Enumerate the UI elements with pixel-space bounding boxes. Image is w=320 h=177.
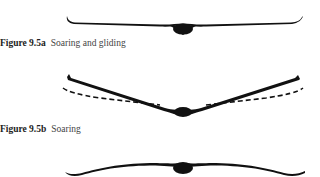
silhouette-soaring-dihedral-icon (63, 74, 303, 117)
figure-number: Figure 9.5a (0, 38, 46, 48)
figure-caption-9-5a: Figure 9.5aSoaring and gliding (0, 38, 126, 48)
figure-caption-text: Soaring (51, 124, 81, 134)
figure-number: Figure 9.5b (0, 124, 46, 134)
silhouette-soaring-gliding-icon (67, 16, 303, 35)
figure-caption-text: Soaring and gliding (51, 38, 126, 48)
figure-caption-9-5b: Figure 9.5bSoaring (0, 124, 81, 134)
figure-canvas (0, 0, 320, 177)
silhouette-gull-wing-icon (65, 162, 305, 176)
